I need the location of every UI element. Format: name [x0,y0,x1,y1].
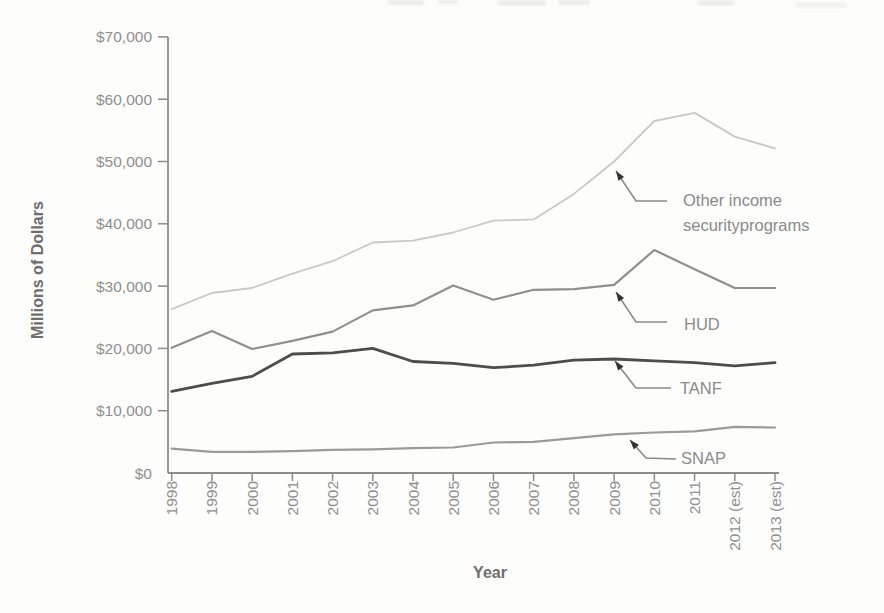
annotation-hud: HUD [616,292,720,333]
x-tick-label: 2008 [565,481,582,515]
x-tick-label: 2012 (est) [726,481,743,551]
line-chart-svg: $0$10,000$20,000$30,000$40,000$50,000$60… [0,0,884,613]
y-tick-label: $60,000 [96,91,152,108]
x-tick-label: 2000 [244,481,261,516]
y-tick-label: $20,000 [96,340,152,357]
annotation-label-other: Other income [683,191,782,209]
x-tick-label: 2009 [606,481,623,515]
annotation-label-snap: SNAP [681,449,726,467]
annotation-label-other: securityprograms [683,216,810,234]
y-tick-label: $30,000 [96,278,152,295]
annotation-arrowhead-icon [616,171,624,181]
y-tick-label: $10,000 [96,402,152,419]
x-tick-label: 1999 [203,481,220,515]
x-tick-label: 2007 [525,481,542,515]
annotation-label-tanf: TANF [680,379,722,397]
annotation-arrow-line [616,292,667,322]
annotation-arrow-line [616,171,667,201]
annotation-arrowhead-icon [616,292,624,302]
x-tick-label: 2005 [445,481,462,515]
annotation-other: Other incomesecurityprograms [616,171,810,234]
annotation-snap: SNAP [630,440,726,467]
x-tick-label: 2001 [284,481,301,515]
x-tick-label: 2013 (est) [767,481,784,551]
x-tick-label: 2010 [646,481,663,516]
x-tick-label: 1998 [163,481,180,515]
y-tick-label: $50,000 [96,153,152,170]
axes [168,37,779,473]
x-axis-title: Year [473,564,507,581]
x-tick-label: 2003 [364,481,381,515]
series-lines [172,113,775,452]
annotation-tanf: TANF [615,361,722,397]
annotation-arrow-line [615,361,671,388]
x-tick-label: 2011 [686,481,703,514]
annotation-arrow-line [630,440,676,459]
chart: $0$10,000$20,000$30,000$40,000$50,000$60… [0,0,884,613]
annotation-label-hud: HUD [684,315,720,333]
series-line-hud [172,250,775,349]
series-line-other [172,113,775,309]
y-tick-label: $40,000 [96,215,152,232]
y-axis-title: Millions of Dollars [29,201,46,339]
y-tick-label: $70,000 [96,28,152,45]
y-tick-label: $0 [135,465,153,482]
x-tick-label: 2002 [324,481,341,515]
x-tick-label: 2004 [405,481,422,516]
x-tick-label: 2006 [485,481,502,515]
